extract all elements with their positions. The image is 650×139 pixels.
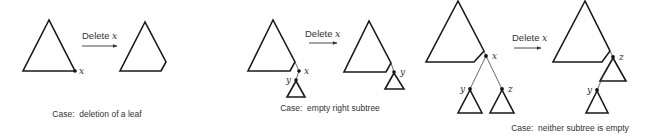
tree-edge: [597, 74, 604, 90]
subtree-triangle: [344, 21, 391, 72]
node-x: [297, 69, 301, 73]
tree-edge: [470, 56, 486, 89]
after-tree: y: [344, 21, 406, 89]
subtree-triangle: [23, 20, 75, 71]
after-tree: [120, 22, 166, 71]
node-label-x: x: [79, 66, 84, 76]
delete-arrow: Delete x: [305, 28, 341, 43]
node-label-x: x: [492, 51, 497, 61]
panel-neither-subtree-empty: x y z Delete x z y Case: neither subtree…: [426, 1, 630, 133]
node-label-z: z: [507, 84, 513, 94]
tree-deletion-diagram: x Delete x Case: deletion of a leaf x y …: [0, 0, 650, 139]
panel-empty-right-subtree: x y Delete x y Case: empty right subtree: [248, 20, 406, 113]
subtree-triangle: [553, 1, 610, 62]
delete-arrow: Delete x: [512, 32, 548, 48]
operation-label: Delete x: [512, 32, 548, 43]
before-tree: x y z: [426, 1, 514, 113]
subtree-triangle: [248, 20, 295, 71]
case-caption: Case: empty right subtree: [280, 103, 380, 113]
case-caption: Case: neither subtree is empty: [511, 123, 629, 133]
after-tree: z y: [553, 1, 626, 113]
node-label-z: z: [618, 52, 624, 62]
case-caption: Case: deletion of a leaf: [52, 109, 142, 119]
node-x: [73, 69, 77, 73]
node-x: [484, 54, 488, 58]
node-label-y: y: [285, 75, 292, 85]
before-tree: x: [23, 20, 84, 76]
node-label-y: y: [399, 67, 406, 77]
operation-label: Delete x: [305, 28, 341, 39]
panel-leaf-deletion: x Delete x Case: deletion of a leaf: [23, 20, 166, 119]
operation-label: Delete x: [82, 30, 118, 41]
delete-arrow: Delete x: [82, 30, 118, 46]
subtree-triangle: [426, 1, 484, 62]
node-label-y: y: [459, 84, 466, 94]
node-label-y: y: [586, 85, 593, 95]
before-tree: x y: [248, 20, 309, 97]
subtree-triangle: [120, 22, 166, 71]
node-label-x: x: [304, 66, 309, 76]
